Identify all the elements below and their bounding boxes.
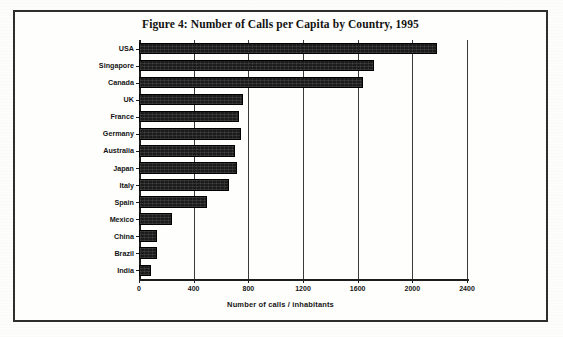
x-tick-label-2000: 2000 <box>405 285 421 292</box>
bar-spain <box>139 196 207 208</box>
x-tick-2000 <box>412 279 413 283</box>
x-tick-2400 <box>467 279 468 283</box>
bar-row <box>139 228 467 245</box>
x-axis-label: Number of calls / inhabitants <box>15 300 546 309</box>
bar-italy <box>139 179 229 191</box>
category-label-usa: USA <box>119 40 134 57</box>
bar-row <box>139 177 467 194</box>
bar-brazil <box>139 247 157 259</box>
bar-australia <box>139 145 235 157</box>
x-tick-400 <box>194 279 195 283</box>
category-label-japan: Japan <box>113 160 134 177</box>
bar-singapore <box>139 60 374 72</box>
bar-usa <box>139 43 437 55</box>
bar-germany <box>139 128 241 140</box>
x-tick-label-400: 400 <box>188 285 200 292</box>
bar-row <box>139 74 467 91</box>
category-label-singapore: Singapore <box>99 57 134 74</box>
x-axis-line <box>139 279 469 281</box>
figure-frame: Figure 4: Number of Calls per Capita by … <box>13 10 548 322</box>
category-label-india: India <box>117 262 134 279</box>
bar-france <box>139 111 239 123</box>
category-label-canada: Canada <box>108 74 134 91</box>
category-axis-labels: USASingaporeCanadaUKFranceGermanyAustral… <box>15 40 139 279</box>
bar-row <box>139 57 467 74</box>
bar-canada <box>139 77 363 89</box>
x-tick-label-0: 0 <box>137 285 141 292</box>
x-tick-1200 <box>303 279 304 283</box>
chart-title: Figure 4: Number of Calls per Capita by … <box>15 18 546 30</box>
category-label-spain: Spain <box>114 194 134 211</box>
x-tick-label-800: 800 <box>242 285 254 292</box>
bar-uk <box>139 94 243 106</box>
x-tick-label-2400: 2400 <box>459 285 475 292</box>
gridline-2400 <box>467 40 468 279</box>
bar-india <box>139 265 151 277</box>
bar-row <box>139 125 467 142</box>
bar-row <box>139 142 467 159</box>
bar-japan <box>139 162 237 174</box>
category-label-mexico: Mexico <box>110 211 134 228</box>
category-label-france: France <box>110 108 134 125</box>
bar-row <box>139 194 467 211</box>
category-label-brazil: Brazil <box>114 245 134 262</box>
scanned-page: Figure 4: Number of Calls per Capita by … <box>0 0 563 337</box>
x-tick-800 <box>248 279 249 283</box>
bar-row <box>139 40 467 57</box>
x-tick-1600 <box>358 279 359 283</box>
bar-row <box>139 160 467 177</box>
x-tick-label-1600: 1600 <box>350 285 366 292</box>
bar-row <box>139 108 467 125</box>
plot-area <box>139 40 467 279</box>
bar-row <box>139 91 467 108</box>
category-label-uk: UK <box>124 91 134 108</box>
x-tick-0 <box>139 279 140 283</box>
x-tick-label-1200: 1200 <box>295 285 311 292</box>
bar-china <box>139 230 157 242</box>
category-label-china: China <box>114 228 134 245</box>
category-label-australia: Australia <box>103 142 134 159</box>
bar-mexico <box>139 213 172 225</box>
category-label-germany: Germany <box>103 125 134 142</box>
category-label-italy: Italy <box>120 177 134 194</box>
bar-row <box>139 262 467 279</box>
bar-row <box>139 211 467 228</box>
bar-row <box>139 245 467 262</box>
